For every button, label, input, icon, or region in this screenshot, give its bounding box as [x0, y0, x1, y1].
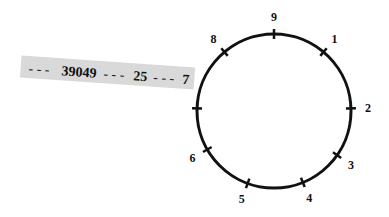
marker-label-4: 4 — [306, 191, 312, 205]
strip-dashes-1: - - - — [28, 61, 50, 77]
marker-label-6: 6 — [190, 151, 196, 165]
strip-dashes-3: - - - — [153, 70, 175, 86]
dial-circle — [197, 34, 351, 188]
marker-label-5: 5 — [239, 192, 245, 206]
dial-labels: 91234568 — [190, 10, 371, 206]
strip-value-39049: 39049 — [61, 63, 97, 80]
circular-dial-diagram: - - - 39049 - - - 25 - - - 7 91234568 — [0, 0, 389, 217]
tick-mark-4 — [301, 178, 305, 187]
marker-label-1: 1 — [331, 32, 337, 46]
marker-label-9: 9 — [271, 10, 277, 24]
strip-value-25: 25 — [133, 68, 148, 84]
marker-label-8: 8 — [211, 32, 217, 46]
strip-dashes-2: - - - — [103, 66, 125, 82]
marker-label-2: 2 — [365, 101, 371, 115]
strip-value-7: 7 — [182, 72, 190, 87]
marker-label-3: 3 — [348, 158, 354, 172]
tick-mark-5 — [246, 179, 249, 188]
pointer-strip: - - - 39049 - - - 25 - - - 7 — [20, 55, 195, 89]
